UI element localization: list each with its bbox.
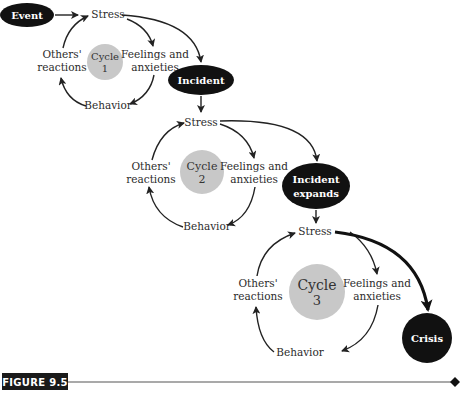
cycle-1-stress: Stress (91, 8, 124, 20)
cycle-2-number: 2 (199, 173, 206, 186)
cycle-2-title: Cycle (187, 160, 218, 173)
cycle-2-feelings-line1: Feelings and (220, 160, 288, 172)
cycle-3-others-to-stress-arrow (257, 233, 295, 276)
cycle-1-feelings-line1: Feelings and (121, 48, 189, 60)
cycle-1-behavior-to-others-arrow (61, 78, 86, 106)
cycle-2-feelings-line2: anxieties (230, 173, 278, 185)
cycle-1-stress-to-feelings-arrow (127, 19, 153, 46)
cycle-3-feelings-line2: anxieties (353, 290, 401, 302)
cycle-2-others-line1: Others' (131, 160, 170, 172)
cycle-3-feelings-to-behavior-arrow (342, 305, 378, 351)
event-label: Event (11, 10, 43, 21)
cycle-3-behavior: Behavior (276, 346, 325, 358)
event-node: Event (0, 3, 54, 27)
cycle-3-stress: Stress (298, 225, 331, 237)
cycle-2-behavior: Behavior (183, 220, 232, 232)
cycle-1-others-to-stress-arrow (63, 16, 88, 48)
cycle-1-others-line1: Others' (42, 48, 81, 60)
cycle-3-feelings-line1: Feelings and (343, 277, 411, 289)
figure-caption: FIGURE 9.5 (2, 373, 460, 390)
cycle-2-behavior-to-others-arrow (149, 187, 183, 227)
escalation-diagram: Event Stress Cycle 1 Feelings and anxiet… (0, 0, 467, 398)
figure-label: FIGURE 9.5 (2, 377, 68, 388)
incident-label: Incident (177, 75, 224, 86)
stress-to-incident-expands-arrow (220, 121, 317, 161)
cycle-3-behavior-to-others-arrow (256, 307, 274, 352)
cycle-2-feelings-to-behavior-arrow (228, 187, 255, 225)
incident-node: Incident (168, 65, 234, 95)
incident-expands-label-line2: expands (293, 188, 339, 199)
cycle-2-others-to-stress-arrow (152, 123, 184, 160)
incident-expands-node: Incident expands (282, 163, 350, 209)
cycle-2-others-line2: reactions (126, 173, 175, 185)
incident-expands-label-line1: Incident (292, 174, 339, 185)
crisis-label: Crisis (411, 333, 443, 344)
cycle-2-stress-to-feelings-arrow (220, 124, 254, 158)
cycle-2-stress: Stress (184, 116, 217, 128)
cycle-1-feelings-to-behavior-arrow (130, 75, 154, 104)
cycle-1-title: Cycle (91, 51, 119, 62)
cycle-1-others-line2: reactions (37, 61, 86, 73)
crisis-node: Crisis (402, 313, 452, 363)
diamond-icon (450, 377, 460, 387)
cycle-1-behavior: Behavior (84, 99, 133, 111)
cycle-1-feelings-line2: anxieties (131, 61, 179, 73)
cycle-3-number: 3 (313, 293, 321, 308)
cycle-1-number: 1 (102, 63, 108, 74)
cycle-3-title: Cycle (297, 277, 336, 293)
cycle-3-others-line2: reactions (233, 290, 282, 302)
cycle-3-others-line1: Others' (238, 277, 277, 289)
cycle-2: Stress Cycle 2 Feelings and anxieties Be… (126, 116, 288, 232)
cycle-1-circle (87, 44, 123, 80)
